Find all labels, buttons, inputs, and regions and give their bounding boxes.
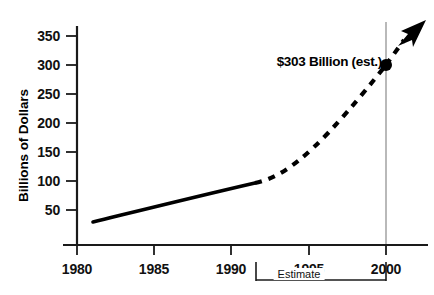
x-tick-label-2000: 2000 <box>371 261 401 277</box>
y-tick-label-250: 250 <box>12 86 60 102</box>
y-tick-label-350: 350 <box>12 28 60 44</box>
x-axis-ticks <box>77 245 386 255</box>
chart-plot-area <box>0 0 434 295</box>
y-tick-label-50: 50 <box>12 202 60 218</box>
series-actual-line <box>93 183 255 222</box>
y-tick-label-300: 300 <box>12 57 60 73</box>
x-tick-label-1980: 1980 <box>62 261 92 277</box>
x-tick-label-1985: 1985 <box>139 261 169 277</box>
x-tick-label-1990: 1990 <box>216 261 246 277</box>
y-tick-label-100: 100 <box>12 173 60 189</box>
y-tick-label-150: 150 <box>12 144 60 160</box>
y-axis-ticks <box>66 36 77 210</box>
chart-container: Billions of Dollars 350 300 250 200 150 … <box>0 0 434 295</box>
datapoint-annotation: $303 Billion (est.) <box>277 54 382 69</box>
series-estimate-line <box>255 65 386 183</box>
trend-arrow-icon <box>398 20 426 47</box>
y-tick-label-200: 200 <box>12 115 60 131</box>
estimate-bracket-label: Estimate <box>274 268 325 280</box>
